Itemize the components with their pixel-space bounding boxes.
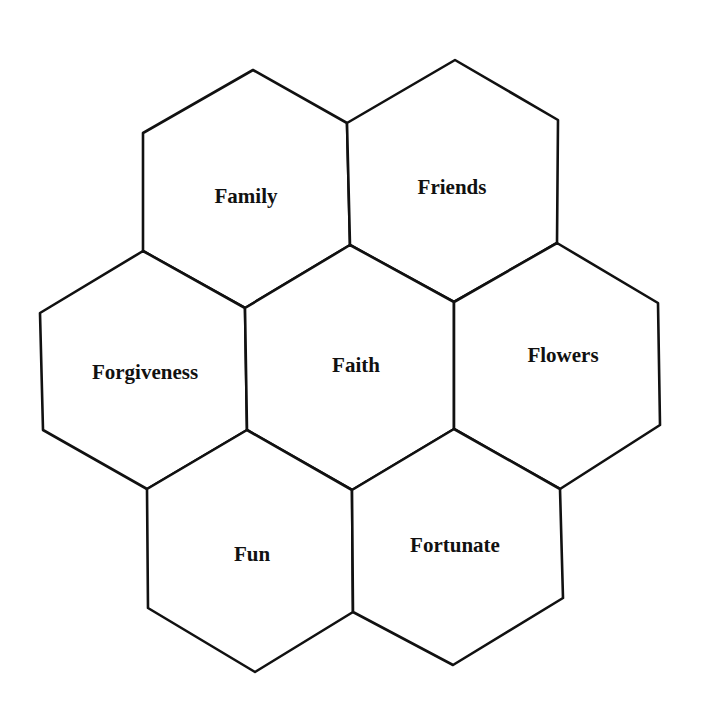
label-forgiveness: Forgiveness xyxy=(92,360,198,384)
label-family: Family xyxy=(215,184,278,208)
label-friends: Friends xyxy=(418,175,487,199)
label-flowers: Flowers xyxy=(527,343,598,367)
hexagon-diagram: Family Friends Forgiveness Faith Flowers… xyxy=(0,0,701,718)
label-fun: Fun xyxy=(234,542,271,566)
label-faith: Faith xyxy=(332,353,380,377)
label-fortunate: Fortunate xyxy=(410,533,500,557)
